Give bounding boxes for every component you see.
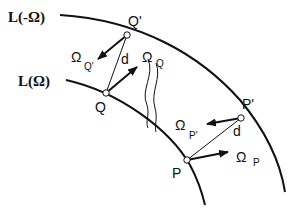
omega-Qprime-subscript: Q' [84,61,94,72]
omega-Qprime-symbol: Ω [71,49,81,65]
inner-curve [66,80,205,205]
omega-Pprime-symbol: Ω [175,117,185,133]
label-Pprime: P' [242,96,254,112]
label-P: P [172,165,181,181]
omega-Pprime-subscript: P' [189,130,198,141]
point-P [184,157,190,163]
point-Pprime [238,115,244,121]
inner-curve-label: L(Ω) [18,73,50,90]
label-Qprime: Q' [128,13,142,29]
point-Q [103,90,109,96]
omega-Q-subscript: Q [156,58,164,69]
distance-d-upper: d [121,51,129,67]
omega-Q-symbol: Ω [142,49,152,65]
label-Q: Q [95,99,106,115]
break-line-2 [154,63,158,132]
outer-curve-label: L(-Ω) [8,9,45,26]
point-Qprime [124,32,130,38]
omega-P-subscript: P [253,157,260,168]
omega-P-symbol: Ω [236,149,246,165]
distance-d-lower: d [233,123,241,139]
curves-diagram: L(-Ω) L(Ω) Q' Q P' P d d Ω Q' Ω Q Ω P' Ω… [0,0,299,215]
vector-omega-P [187,152,228,160]
